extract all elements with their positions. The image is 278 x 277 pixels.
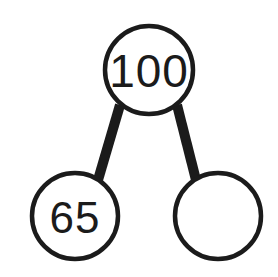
number-bond-canvas: 100 65 (0, 0, 278, 277)
left-part-circle-label: 65 (50, 193, 101, 242)
whole-circle-label: 100 (109, 45, 189, 97)
right-part-circle[interactable] (175, 173, 261, 259)
number-bond-diagram: 100 65 (0, 0, 278, 277)
